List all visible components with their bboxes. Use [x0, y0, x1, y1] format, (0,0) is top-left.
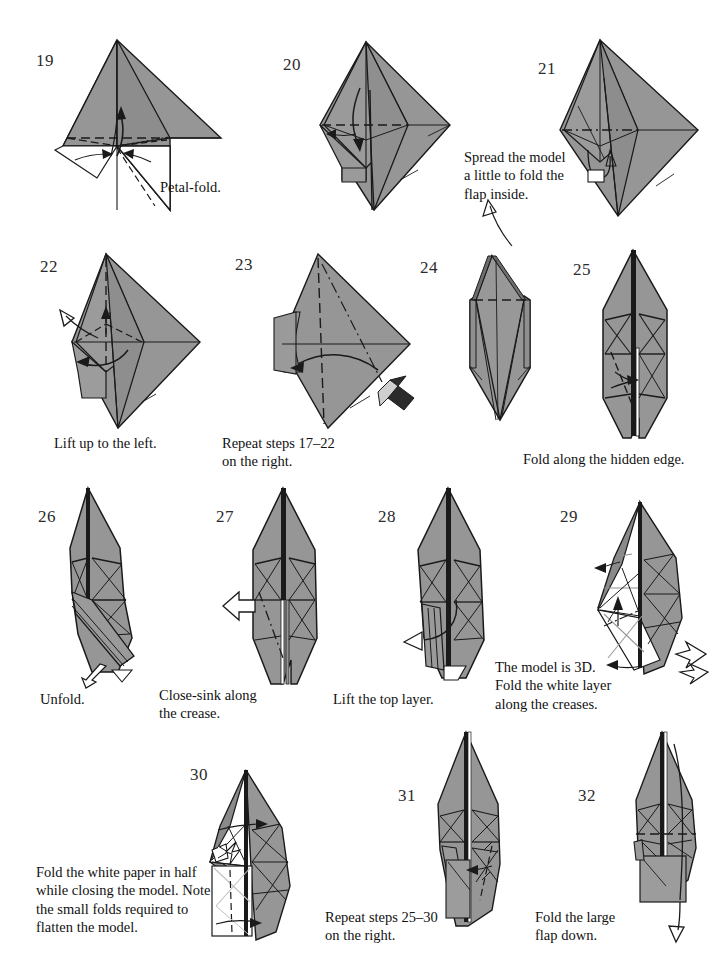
figure-step-26	[48, 488, 178, 688]
spread-pointer-arrow-21	[470, 198, 530, 248]
step-caption-23: Repeat steps 17–22 on the right.	[222, 434, 335, 471]
figure-step-30	[200, 766, 330, 966]
step-caption-25: Fold along the hidden edge.	[523, 450, 684, 468]
step-caption-21: Spread the model a little to fold the fl…	[464, 148, 565, 203]
step-number-26: 26	[38, 508, 56, 525]
figure-step-23	[238, 252, 418, 442]
step-caption-19: Petal-fold.	[160, 178, 221, 196]
figure-step-22	[38, 252, 218, 442]
step-number-29: 29	[560, 508, 578, 525]
step-number-30: 30	[190, 766, 208, 783]
step-caption-30: Fold the white paper in half while closi…	[36, 863, 210, 936]
step-number-25: 25	[573, 261, 591, 278]
figure-step-19	[45, 38, 255, 218]
figure-step-31	[420, 730, 550, 940]
step-number-31: 31	[398, 787, 416, 804]
step-caption-26: Unfold.	[40, 690, 85, 708]
step-number-22: 22	[40, 258, 58, 275]
figure-step-24	[440, 248, 560, 443]
push-pointer-icon	[378, 376, 414, 410]
step-number-20: 20	[283, 56, 301, 73]
step-number-32: 32	[578, 787, 596, 804]
instruction-page: 19 Petal-fold.	[0, 0, 717, 970]
step-number-27: 27	[216, 508, 234, 525]
step-caption-29: The model is 3D. Fold the white layer al…	[495, 658, 611, 713]
figure-step-21	[548, 38, 717, 228]
figure-step-25	[585, 248, 705, 446]
step-number-21: 21	[538, 60, 556, 77]
step-caption-28: Lift the top layer.	[333, 690, 434, 708]
step-caption-27: Close-sink along the crease.	[159, 686, 257, 723]
step-number-23: 23	[235, 256, 253, 273]
figure-step-27	[235, 488, 365, 688]
step-number-24: 24	[420, 259, 438, 276]
step-number-19: 19	[36, 52, 54, 69]
step-number-28: 28	[378, 508, 396, 525]
figure-step-20	[300, 40, 460, 230]
figure-step-32	[622, 730, 717, 960]
step-caption-22: Lift up to the left.	[54, 434, 157, 452]
step-caption-31: Repeat steps 25–30 on the right.	[325, 908, 438, 945]
step-caption-32: Fold the large flap down.	[535, 908, 615, 945]
